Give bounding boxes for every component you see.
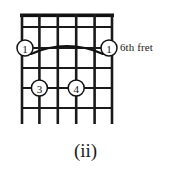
chord-diagram-figure: 1 1 3 4 6th fret (ii) [0,0,171,173]
figure-caption: (ii) [0,140,171,162]
finger-marker-ring: 3 [31,80,47,96]
finger-number-label: 4 [73,83,79,95]
finger-marker-pinky: 4 [68,80,84,96]
finger-number-label: 1 [106,43,112,55]
finger-number-label: 1 [22,43,28,55]
fret-lines-group [21,27,113,108]
finger-marker-barre-high: 1 [101,40,117,56]
finger-marker-barre-low: 1 [17,40,33,56]
finger-number-label: 3 [37,83,43,95]
fret-position-label: 6th fret [120,42,153,53]
nut-bar [20,14,114,18]
